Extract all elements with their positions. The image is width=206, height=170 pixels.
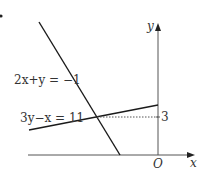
label-y-value: 3 <box>161 110 169 124</box>
diagram-canvas: 2x+y = −1 3y−x = 11 3 y x O <box>0 0 206 170</box>
origin-label: O <box>153 157 163 170</box>
x-axis-label: x <box>190 156 197 170</box>
label-eq-2: 3y−x = 11 <box>20 111 84 125</box>
line-2x-plus-y <box>39 22 120 155</box>
label-eq-1: 2x+y = −1 <box>14 73 81 87</box>
y-axis-arrow-icon <box>155 23 161 31</box>
stray-mark <box>0 14 3 17</box>
y-axis-label: y <box>146 19 154 33</box>
